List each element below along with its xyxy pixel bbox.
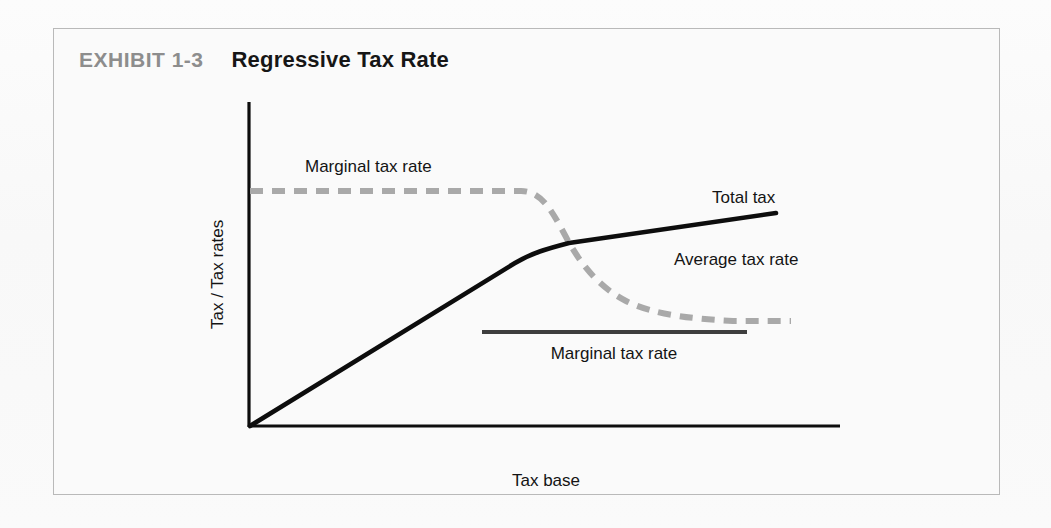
average-tax-rate-label: Average tax rate: [674, 250, 798, 269]
marginal-tax-rate-bottom-label: Marginal tax rate: [551, 344, 678, 363]
chart-plot-area: Tax / Tax rates Tax base Marginal tax ra…: [54, 29, 1001, 496]
marginal-tax-rate-top-label: Marginal tax rate: [305, 157, 432, 176]
total-tax-line: [250, 213, 776, 426]
exhibit-page: EXHIBIT 1-3 Regressive Tax Rate Tax / Ta…: [0, 0, 1051, 528]
x-axis-label: Tax base: [512, 471, 580, 490]
exhibit-frame: EXHIBIT 1-3 Regressive Tax Rate Tax / Ta…: [53, 28, 1000, 495]
regressive-tax-rate-chart: Tax / Tax rates Tax base Marginal tax ra…: [54, 29, 1001, 496]
total-tax-label: Total tax: [712, 188, 776, 207]
y-axis-label: Tax / Tax rates: [208, 220, 227, 329]
